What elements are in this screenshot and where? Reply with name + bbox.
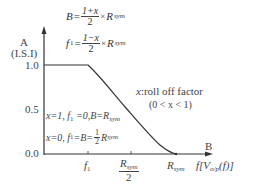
y-tick-1: 1.0 [25,60,39,71]
x-tick-rsym: Rsym [167,160,185,173]
rolloff-range: (0 < x < 1) [149,100,192,110]
rolloff-annotation: x:roll off factor [136,86,203,97]
x-tick-rsym-half: Rsym 2 [119,158,139,183]
rsym-point [175,153,178,156]
equation-bandwidth: B = 1+x 2 × Rsym [66,6,125,27]
x-tick-f1: f1 [84,160,91,173]
equation-f1: f1 = 1−x 2 × Rsym [66,33,126,54]
x-axis-arrow-icon [205,152,213,157]
case-x-equals-0: x=0, f1 =B= 1 2 Rsym [46,129,118,146]
y-tick-0-5: 0.5 [25,104,39,115]
y-axis-unit: (I.S.I) [11,48,37,59]
case-x-equals-1: x=1, f1 =0,B=Rsym [46,111,120,123]
x-axis-label-b: B [205,141,212,152]
x-axis-function-label: f[Vo/p(f)] [196,160,234,173]
y-tick-0: 0.0 [25,148,39,159]
y-axis-arrow-icon [42,26,47,34]
